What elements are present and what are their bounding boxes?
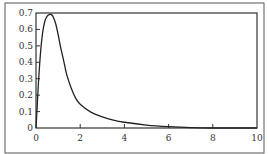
x-tick-label: 10 [251,133,263,143]
x-tick-label: 6 [166,133,172,143]
density-curve [36,14,257,128]
x-tick-label: 0 [33,133,39,143]
x-tick-label: 2 [77,133,83,143]
x-tick-label: 8 [210,133,216,143]
y-tick-label: 0.6 [19,24,34,34]
y-tick-label: 0.1 [19,107,33,117]
x-axis: 0246810 [33,124,263,143]
y-tick-label: 0 [27,123,33,133]
y-tick-label: 0.5 [19,41,34,51]
y-tick-label: 0.7 [19,8,34,18]
y-tick-label: 0.4 [19,57,34,67]
chart: 0246810 00.10.20.30.40.50.60.7 [0,0,268,154]
plot-area: 0246810 00.10.20.30.40.50.60.7 [19,8,263,143]
axes-frame [36,13,257,128]
y-tick-label: 0.2 [19,90,33,100]
x-tick-label: 4 [122,133,128,143]
y-tick-label: 0.3 [19,74,34,84]
